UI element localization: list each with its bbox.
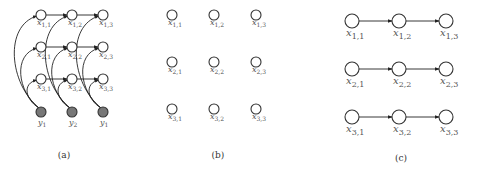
node-subscript: 3,2 xyxy=(215,115,225,122)
node-subscript: 2,3 xyxy=(446,80,459,89)
latent-node-x31 xyxy=(345,110,359,124)
node-label-x33: x3,3 xyxy=(440,123,458,137)
node-subscript: 1,1 xyxy=(173,21,183,28)
node-subscript: 1 xyxy=(105,121,109,128)
panel-c: x1,1x1,2x1,3x2,1x2,2x2,3x3,1x3,2x3,3(c) xyxy=(345,14,458,163)
node-subscript: 1,2 xyxy=(73,21,83,28)
node-subscript: 1,2 xyxy=(215,21,225,28)
panel-caption-c: (c) xyxy=(395,153,407,163)
node-subscript: 2,2 xyxy=(399,80,412,89)
panel-b: x1,1x1,2x1,3x2,1x2,2x2,3x3,1x3,2x3,3(b) xyxy=(167,10,266,160)
node-label-y1: y1 xyxy=(37,118,46,128)
node-subscript: 1,3 xyxy=(257,21,267,28)
node-subscript: 3,1 xyxy=(352,128,365,137)
node-subscript: 3,3 xyxy=(257,115,267,122)
node-subscript: 1,3 xyxy=(104,21,114,28)
graphical-model-diagram: x1,1x1,2x1,3x2,1x2,2x2,3x3,1x3,2x3,3y1y2… xyxy=(0,0,483,174)
latent-node-x33 xyxy=(439,110,453,124)
node-subscript: 2 xyxy=(74,121,78,128)
node-subscript: 1 xyxy=(43,121,47,128)
node-subscript: 3,2 xyxy=(73,85,83,92)
latent-node-x11 xyxy=(345,14,359,28)
observed-node-y3 xyxy=(98,107,108,117)
node-subscript: 1,2 xyxy=(399,32,412,41)
panel-a: x1,1x1,2x1,3x2,1x2,2x2,3x3,1x3,2x3,3y1y2… xyxy=(14,10,113,160)
node-subscript: 3,1 xyxy=(42,85,52,92)
node-label-x32: x3,2 xyxy=(393,123,411,137)
node-subscript: 2,1 xyxy=(173,68,183,75)
latent-node-x12 xyxy=(392,14,406,28)
latent-node-x32 xyxy=(392,110,406,124)
node-label-x31: x3,1 xyxy=(346,123,364,137)
latent-node-x23 xyxy=(439,62,453,76)
node-subscript: 2,2 xyxy=(73,53,83,60)
node-label-x23: x2,3 xyxy=(440,75,458,89)
node-subscript: 2,3 xyxy=(104,53,114,60)
node-subscript: 3,3 xyxy=(446,128,459,137)
observed-node-y1 xyxy=(36,107,46,117)
panel-caption-a: (a) xyxy=(58,150,70,160)
node-subscript: 3,3 xyxy=(104,85,114,92)
node-label-x11: x1,1 xyxy=(346,27,364,41)
node-subscript: 2,1 xyxy=(352,80,365,89)
latent-node-x22 xyxy=(392,62,406,76)
latent-node-x13 xyxy=(439,14,453,28)
node-subscript: 2,1 xyxy=(42,53,52,60)
node-label-x12: x1,2 xyxy=(393,27,411,41)
node-label-x21: x2,1 xyxy=(346,75,364,89)
node-label-y3: y1 xyxy=(99,118,108,128)
node-subscript: 2,2 xyxy=(215,68,225,75)
node-subscript: 1,1 xyxy=(42,21,52,28)
node-label-x22: x2,2 xyxy=(393,75,411,89)
node-label-x13: x1,3 xyxy=(440,27,458,41)
node-label-y2: y2 xyxy=(68,118,78,128)
node-subscript: 2,3 xyxy=(257,68,267,75)
panel-caption-b: (b) xyxy=(212,150,225,160)
latent-node-x21 xyxy=(345,62,359,76)
node-subscript: 1,3 xyxy=(446,32,459,41)
observed-node-y2 xyxy=(67,107,77,117)
node-subscript: 3,1 xyxy=(173,115,183,122)
node-subscript: 3,2 xyxy=(399,128,412,137)
node-subscript: 1,1 xyxy=(352,32,365,41)
